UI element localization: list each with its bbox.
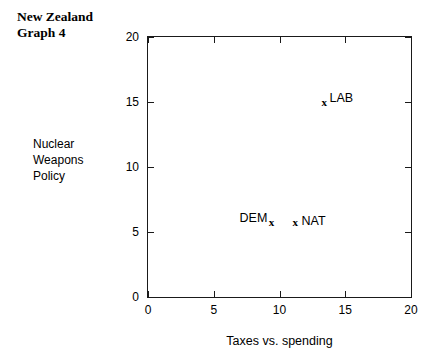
data-point-dem: xDEM <box>269 216 275 227</box>
y-axis-tick-label: 5 <box>132 225 139 239</box>
x-axis-tick-label: 15 <box>339 303 352 317</box>
x-axis-tick <box>280 291 281 297</box>
x-axis-tick-top <box>411 37 412 43</box>
x-axis-tick-top <box>345 37 346 43</box>
x-axis-label: Taxes vs. spending <box>147 334 412 348</box>
y-axis-tick <box>148 102 154 103</box>
data-point-nat: xNAT <box>293 216 299 227</box>
data-point-lab: xLAB <box>321 97 327 108</box>
y-axis-label-line-2: Weapons <box>33 152 83 168</box>
x-axis-tick-label: 5 <box>210 303 217 317</box>
x-axis-tick-top <box>148 37 149 43</box>
y-axis-tick-right <box>405 167 411 168</box>
y-axis-tick-label: 15 <box>126 95 139 109</box>
y-axis-tick-label: 0 <box>132 290 139 304</box>
x-axis-tick <box>345 291 346 297</box>
data-point-label-nat: NAT <box>302 215 326 228</box>
x-axis-tick <box>411 291 412 297</box>
x-axis-tick-top <box>214 37 215 43</box>
y-axis-tick-right <box>405 232 411 233</box>
chart-title: New Zealand Graph 4 <box>17 9 93 41</box>
y-axis-label-line-1: Nuclear <box>33 136 83 152</box>
y-axis-tick <box>148 297 154 298</box>
chart-figure: New Zealand Graph 4 Nuclear Weapons Poli… <box>0 0 434 363</box>
y-axis-tick-right <box>405 102 411 103</box>
x-axis-tick-top <box>280 37 281 43</box>
y-axis-label-line-3: Policy <box>33 168 83 184</box>
x-axis-tick-label: 0 <box>145 303 152 317</box>
y-axis-tick-label: 10 <box>126 160 139 174</box>
data-point-label-dem: DEM <box>240 212 268 225</box>
y-axis-tick-right <box>405 297 411 298</box>
x-axis-tick <box>214 291 215 297</box>
x-axis-tick <box>148 291 149 297</box>
y-axis-tick <box>148 232 154 233</box>
x-axis-tick-label: 10 <box>273 303 286 317</box>
plot-area: 0510152005101520xLABxDEMxNAT <box>147 36 412 298</box>
chart-title-line-2: Graph 4 <box>17 25 93 41</box>
y-axis-tick-label: 20 <box>126 30 139 44</box>
chart-title-line-1: New Zealand <box>17 9 93 25</box>
y-axis-tick <box>148 167 154 168</box>
data-point-label-lab: LAB <box>329 91 353 104</box>
y-axis-label: Nuclear Weapons Policy <box>33 136 83 184</box>
x-axis-tick-label: 20 <box>404 303 417 317</box>
